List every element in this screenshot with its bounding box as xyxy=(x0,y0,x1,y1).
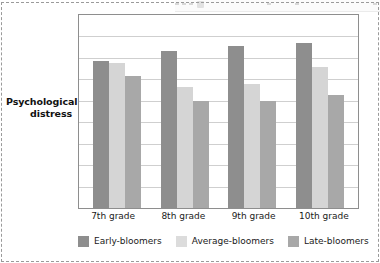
bar[interactable] xyxy=(244,84,260,208)
bar[interactable] xyxy=(296,43,312,208)
bar[interactable] xyxy=(109,63,125,208)
legend-item[interactable]: Average-bloomers xyxy=(176,236,274,247)
legend-label: Average-bloomers xyxy=(192,236,274,246)
legend-swatch-icon xyxy=(78,236,89,247)
chart-legend: Early-bloomersAverage-bloomersLate-bloom… xyxy=(78,233,368,249)
x-axis-label: 8th grade xyxy=(151,211,215,221)
bar[interactable] xyxy=(260,101,276,209)
legend-swatch-icon xyxy=(288,236,299,247)
x-axis-label: 7th grade xyxy=(81,211,145,221)
x-axis-label: 9th grade xyxy=(222,211,286,221)
bar-chart-figure: Psychological distress 7th grade8th grad… xyxy=(0,0,380,263)
bar[interactable] xyxy=(312,67,328,208)
x-axis-labels: 7th grade8th grade9th grade10th grade xyxy=(78,211,359,225)
legend-label: Early-bloomers xyxy=(94,236,162,246)
plot-area xyxy=(78,14,359,209)
bar-groups xyxy=(79,15,358,208)
legend-item[interactable]: Late-bloomers xyxy=(288,236,369,247)
bar-group xyxy=(228,15,276,208)
screenshot-root: Psychological distress 7th grade8th grad… xyxy=(0,0,380,263)
y-axis-title-line1: Psychological xyxy=(6,96,77,107)
y-axis-title: Psychological distress xyxy=(6,96,72,120)
bar[interactable] xyxy=(177,87,193,208)
bar-group xyxy=(93,15,141,208)
bar[interactable] xyxy=(328,95,344,208)
bar-group xyxy=(161,15,209,208)
x-axis-label: 10th grade xyxy=(292,211,356,221)
bar[interactable] xyxy=(161,51,177,208)
legend-swatch-icon xyxy=(176,236,187,247)
bar[interactable] xyxy=(193,101,209,209)
bar[interactable] xyxy=(125,76,141,208)
y-axis-title-line2: distress xyxy=(6,108,72,120)
bar[interactable] xyxy=(228,46,244,208)
legend-label: Late-bloomers xyxy=(304,236,369,246)
bar[interactable] xyxy=(93,61,109,208)
legend-item[interactable]: Early-bloomers xyxy=(78,236,162,247)
bar-group xyxy=(296,15,344,208)
